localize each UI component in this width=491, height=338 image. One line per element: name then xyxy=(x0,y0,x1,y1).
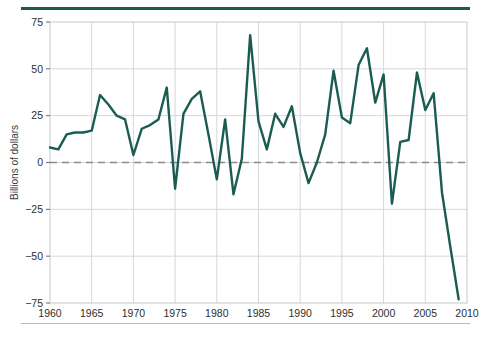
y-tick-label: −25 xyxy=(25,203,43,215)
x-tick-label: 1985 xyxy=(247,307,271,319)
x-tick-label: 2000 xyxy=(372,307,396,319)
y-tick-label: 75 xyxy=(31,16,43,28)
x-tick-label: 1960 xyxy=(38,307,62,319)
y-tick-label: −50 xyxy=(25,250,43,262)
line-chart: −75−50−250255075 19601965197019751980198… xyxy=(0,0,491,338)
x-tick-label: 1995 xyxy=(330,307,354,319)
x-tick-label: 1990 xyxy=(289,307,313,319)
y-tick-label: 50 xyxy=(31,63,43,75)
chart-figure: −75−50−250255075 19601965197019751980198… xyxy=(0,0,491,338)
x-tick-label: 2010 xyxy=(455,307,479,319)
x-tick-label: 1970 xyxy=(122,307,146,319)
x-tick-label: 1980 xyxy=(205,307,229,319)
x-tick-label: 1975 xyxy=(163,307,187,319)
x-tick-label: 1965 xyxy=(80,307,104,319)
x-axis-tick-labels: 1960196519701975198019851990199520002005… xyxy=(38,307,479,319)
y-axis-tick-marks xyxy=(46,22,50,303)
y-axis-title: Billions of dollars xyxy=(9,125,20,200)
y-axis-title-text: Billions of dollars xyxy=(9,125,20,200)
y-tick-label: 0 xyxy=(37,156,43,168)
x-tick-label: 2005 xyxy=(414,307,438,319)
y-tick-label: 25 xyxy=(31,109,43,121)
y-axis-tick-labels: −75−50−250255075 xyxy=(25,16,43,309)
